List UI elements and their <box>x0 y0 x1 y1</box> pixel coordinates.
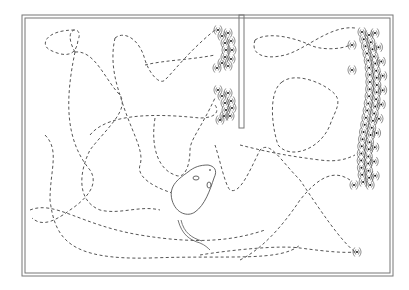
call-marker-icon <box>365 173 373 182</box>
call-marker-icon <box>350 181 358 190</box>
call-marker-icon <box>379 86 387 95</box>
mouse-tail <box>178 220 210 250</box>
call-marker-icon <box>213 64 221 73</box>
call-marker-icon <box>370 52 378 61</box>
trail <box>115 30 215 81</box>
call-marker-icon <box>375 114 383 123</box>
call-marker-icon <box>227 97 235 106</box>
trail <box>45 30 79 55</box>
call-marker-icon <box>214 86 222 95</box>
call-marker-icon <box>228 46 236 55</box>
call-marker-icon <box>377 57 385 66</box>
tracking-diagram <box>0 0 409 290</box>
trail <box>32 52 93 223</box>
mouse-eye <box>209 169 211 171</box>
trail <box>272 78 337 152</box>
call-marker-icon <box>369 116 377 125</box>
movement-trails <box>30 28 355 260</box>
call-marker-icon <box>367 131 375 140</box>
enclosure-outer-wall <box>22 15 393 276</box>
call-marker-icon <box>227 37 235 46</box>
mouse-ear <box>193 176 199 180</box>
mouse-ear <box>207 182 211 188</box>
call-marker-icon <box>348 66 356 75</box>
call-marker-icon <box>222 106 230 115</box>
trail <box>240 145 355 161</box>
call-marker-icon <box>371 171 379 180</box>
call-marker-icon <box>373 129 381 138</box>
mouse-illustration <box>171 165 215 250</box>
call-marker-icon <box>226 112 234 121</box>
call-marker-icon <box>374 43 382 52</box>
trail <box>30 208 265 241</box>
call-marker-icon <box>366 181 374 190</box>
call-marker-icon <box>371 102 379 111</box>
call-marker-icon <box>228 104 236 113</box>
call-marker-icon <box>371 59 379 68</box>
call-marker-icon <box>372 95 380 104</box>
call-marker-icon <box>371 29 379 38</box>
trail <box>145 55 215 65</box>
call-marker-icon <box>365 138 373 147</box>
call-marker-icon <box>379 71 387 80</box>
partition-wall <box>239 15 244 128</box>
call-marker-icon <box>214 26 222 35</box>
trail <box>75 52 160 212</box>
call-marker-icon <box>370 157 378 166</box>
mouse-body <box>171 165 215 214</box>
mouse-tail <box>181 220 202 241</box>
call-marker-icon <box>377 100 385 109</box>
call-marker-icon <box>348 41 356 50</box>
trail <box>154 98 215 176</box>
call-marker-icon <box>368 123 376 132</box>
call-marker-icon <box>371 143 379 152</box>
